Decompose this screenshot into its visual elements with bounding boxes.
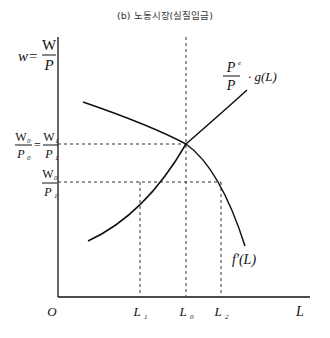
tick-sub: 0 — [190, 313, 194, 321]
label-rest: · g(L) — [248, 69, 277, 84]
y-tick-upper: W 0 P 0 = W 1 P 1 — [15, 130, 59, 162]
tick-main: L — [132, 304, 140, 319]
tick-sub: 1 — [144, 313, 148, 321]
tick-num-sub: 0 — [54, 174, 58, 182]
tick-sub: 2 — [225, 313, 229, 321]
tick-equals: = — [34, 138, 41, 152]
label-num: P — [226, 60, 236, 75]
tick-rhs-num: W — [43, 130, 55, 144]
label-num-sup: e — [238, 59, 241, 67]
tick-rhs-den: P — [44, 147, 53, 161]
x-tick-l2: L 2 — [213, 304, 229, 321]
x-tick-l1: L 1 — [132, 304, 147, 321]
tick-den-sub: 0 — [27, 154, 31, 162]
y-axis-label-denominator: P — [43, 57, 53, 73]
tick-den: P — [43, 185, 52, 199]
label-den: P — [226, 78, 236, 93]
tick-main: L — [178, 304, 186, 319]
tick-num: W — [42, 167, 54, 181]
x-axis-label: L — [295, 304, 304, 319]
origin-label: O — [47, 304, 57, 319]
tick-main: L — [213, 304, 221, 319]
x-tick-l0: L 0 — [178, 304, 194, 321]
y-tick-lower: W 0 P 1 — [42, 167, 58, 200]
demand-curve-label: f′(L) — [232, 252, 256, 268]
tick-rhs-num-sub: 1 — [55, 137, 59, 145]
tick-den-sub: 1 — [54, 192, 58, 200]
tick-rhs-den-sub: 1 — [55, 154, 59, 162]
diagram-title: (b) 노동시장(실질임금) — [117, 10, 213, 21]
y-axis-label-w: w= — [18, 48, 38, 64]
tick-num: W — [15, 130, 27, 144]
tick-den: P — [16, 147, 25, 161]
supply-curve-label: P e P · g(L) — [223, 59, 277, 93]
labor-market-diagram: (b) 노동시장(실질임금) w= W P W 0 P 0 = W 1 P 1 … — [0, 0, 330, 338]
tick-num-sub: 0 — [27, 137, 31, 145]
y-axis-label-numerator: W — [42, 37, 57, 53]
